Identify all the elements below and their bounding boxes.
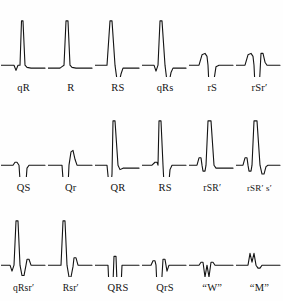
waveform-cell-RS-2: RS	[142, 100, 189, 200]
waveform-rSR-prime-s-prime	[236, 115, 282, 177]
waveform-row-1: qR R RS qRs	[0, 0, 283, 100]
waveform-qR	[1, 15, 47, 77]
waveform-label-QS: QS	[17, 182, 31, 194]
waveform-label-W-pattern: “W”	[202, 282, 222, 294]
waveform-cell-R: R	[47, 0, 94, 100]
waveform-label-qR: qR	[17, 82, 30, 94]
waveform-label-rSR-prime-s-prime: rSR′ s′	[247, 182, 272, 194]
waveform-QS	[1, 115, 47, 177]
waveform-row-2: QS Qr QR RS	[0, 100, 283, 200]
waveform-RS-2	[142, 115, 188, 177]
waveform-label-rS: rS	[207, 82, 217, 94]
waveform-QR	[95, 115, 141, 177]
waveform-QrS	[142, 215, 188, 277]
waveform-rS	[189, 15, 235, 77]
waveform-M-pattern	[236, 215, 282, 277]
waveform-label-QR: QR	[110, 182, 125, 194]
waveform-Rsr-prime	[48, 215, 94, 277]
waveform-cell-QrS: QrS	[142, 200, 189, 300]
waveform-cell-QS: QS	[0, 100, 47, 200]
waveform-qRsr-prime	[1, 215, 47, 277]
waveform-label-rSr-prime: rSr′	[251, 82, 267, 94]
waveform-cell-Qr: Qr	[47, 100, 94, 200]
waveform-row-3: qRsr′ Rsr′ QRS QrS	[0, 200, 283, 300]
waveform-QRS	[95, 215, 141, 277]
waveform-W-pattern	[189, 215, 235, 277]
waveform-label-RS-1: RS	[111, 82, 124, 94]
waveform-cell-qRsr-prime: qRsr′	[0, 200, 47, 300]
waveform-cell-W-pattern: “W”	[189, 200, 236, 300]
waveform-R	[48, 15, 94, 77]
waveform-label-QRS: QRS	[107, 282, 128, 294]
waveform-cell-rSR-prime: rSR′	[189, 100, 236, 200]
waveform-RS-1	[95, 15, 141, 77]
waveform-qRs	[142, 15, 188, 77]
waveform-label-M-pattern: “M”	[250, 282, 269, 294]
qrs-morphology-figure: qR R RS qRs	[0, 0, 283, 301]
waveform-label-QrS: QrS	[156, 282, 174, 294]
waveform-cell-RS-1: RS	[94, 0, 141, 100]
waveform-cell-rSr-prime: rSr′	[236, 0, 283, 100]
waveform-label-rSR-prime: rSR′	[203, 182, 221, 194]
waveform-label-Rsr-prime: Rsr′	[63, 282, 79, 294]
waveform-cell-Rsr-prime: Rsr′	[47, 200, 94, 300]
waveform-cell-rS: rS	[189, 0, 236, 100]
waveform-cell-rSR-prime-s-prime: rSR′ s′	[236, 100, 283, 200]
waveform-Qr	[48, 115, 94, 177]
waveform-cell-M-pattern: “M”	[236, 200, 283, 300]
waveform-label-R: R	[67, 82, 74, 94]
waveform-cell-QR: QR	[94, 100, 141, 200]
waveform-rSR-prime	[189, 115, 235, 177]
waveform-rSr-prime	[236, 15, 282, 77]
waveform-label-qRsr-prime: qRsr′	[13, 282, 34, 294]
waveform-label-qRs: qRs	[157, 82, 174, 94]
waveform-label-Qr: Qr	[65, 182, 76, 194]
waveform-label-RS-2: RS	[158, 182, 171, 194]
waveform-cell-qR: qR	[0, 0, 47, 100]
waveform-cell-QRS: QRS	[94, 200, 141, 300]
waveform-cell-qRs: qRs	[142, 0, 189, 100]
